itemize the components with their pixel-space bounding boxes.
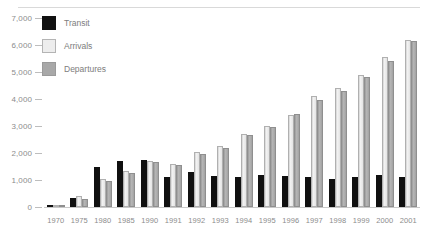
y-axis-tick: 7,000 bbox=[11, 12, 44, 24]
x-axis-tick-label: 1993 bbox=[209, 210, 233, 230]
y-axis-tick-mark bbox=[35, 126, 42, 127]
y-axis-tick-mark bbox=[35, 18, 42, 19]
bar-group bbox=[397, 10, 421, 207]
y-axis-tick: 0 bbox=[27, 201, 44, 213]
bar-group bbox=[279, 10, 303, 207]
bar-group bbox=[138, 10, 162, 207]
bar-group bbox=[162, 10, 186, 207]
bar-group bbox=[326, 10, 350, 207]
y-axis: 7,0006,0005,0004,0003,0002,0001,0000 bbox=[0, 0, 44, 239]
x-axis-tick-label: 1998 bbox=[326, 210, 350, 230]
bar-group bbox=[115, 10, 139, 207]
x-axis-tick-label: 2000 bbox=[373, 210, 397, 230]
y-axis-tick: 1,000 bbox=[11, 174, 44, 186]
y-axis-tick: 4,000 bbox=[11, 93, 44, 105]
x-axis-tick-label: 1996 bbox=[279, 210, 303, 230]
bar-departures[interactable] bbox=[317, 100, 323, 207]
y-axis-tick-label: 5,000 bbox=[11, 68, 32, 77]
x-axis-tick-label: 1990 bbox=[138, 210, 162, 230]
y-axis-tick-label: 1,000 bbox=[11, 176, 32, 185]
bar-departures[interactable] bbox=[247, 135, 253, 207]
bar-departures[interactable] bbox=[200, 154, 206, 207]
bar-group bbox=[68, 10, 92, 207]
bar-departures[interactable] bbox=[364, 77, 370, 207]
y-axis-tick-label: 6,000 bbox=[11, 41, 32, 50]
bar-group bbox=[232, 10, 256, 207]
bar-departures[interactable] bbox=[388, 61, 394, 207]
bar-departures[interactable] bbox=[223, 148, 229, 207]
bar-departures[interactable] bbox=[153, 162, 159, 207]
bar-groups bbox=[44, 10, 420, 207]
x-axis-tick-label: 1980 bbox=[91, 210, 115, 230]
bar-group bbox=[256, 10, 280, 207]
x-axis-tick-label: 1992 bbox=[185, 210, 209, 230]
y-axis-tick-label: 2,000 bbox=[11, 149, 32, 158]
x-axis-tick-label: 1970 bbox=[44, 210, 68, 230]
x-axis: 1970197519801985199019911992199319941995… bbox=[44, 210, 420, 230]
bar-group bbox=[303, 10, 327, 207]
y-axis-tick-mark bbox=[35, 180, 42, 181]
y-axis-tick-mark bbox=[35, 99, 42, 100]
bar-group bbox=[185, 10, 209, 207]
x-axis-tick-label: 1975 bbox=[68, 210, 92, 230]
bar-departures[interactable] bbox=[270, 127, 276, 207]
x-axis-tick-label: 1995 bbox=[256, 210, 280, 230]
bar-departures[interactable] bbox=[341, 91, 347, 207]
top-divider-rule bbox=[18, 7, 420, 8]
y-axis-tick: 5,000 bbox=[11, 66, 44, 78]
y-axis-tick-mark bbox=[35, 45, 42, 46]
y-axis-tick-mark bbox=[35, 207, 42, 208]
x-axis-tick-label: 1991 bbox=[162, 210, 186, 230]
bar-departures[interactable] bbox=[82, 199, 88, 207]
bar-group bbox=[350, 10, 374, 207]
y-axis-tick-mark bbox=[35, 153, 42, 154]
y-axis-tick: 2,000 bbox=[11, 147, 44, 159]
bar-group bbox=[209, 10, 233, 207]
y-axis-tick-label: 4,000 bbox=[11, 95, 32, 104]
y-axis-tick-mark bbox=[35, 72, 42, 73]
x-axis-tick-label: 1994 bbox=[232, 210, 256, 230]
bar-departures[interactable] bbox=[411, 41, 417, 207]
bar-group bbox=[373, 10, 397, 207]
bar-departures[interactable] bbox=[129, 173, 135, 207]
bar-departures[interactable] bbox=[106, 181, 112, 207]
x-axis-tick-label: 1997 bbox=[303, 210, 327, 230]
bar-departures[interactable] bbox=[294, 114, 300, 207]
x-axis-tick-label: 1985 bbox=[115, 210, 139, 230]
y-axis-tick: 3,000 bbox=[11, 120, 44, 132]
y-axis-tick: 6,000 bbox=[11, 39, 44, 51]
bar-group bbox=[44, 10, 68, 207]
x-axis-tick-label: 1999 bbox=[350, 210, 374, 230]
x-axis-baseline bbox=[44, 207, 420, 208]
y-axis-tick-label: 7,000 bbox=[11, 14, 32, 23]
y-axis-tick-label: 0 bbox=[27, 203, 32, 212]
bar-departures[interactable] bbox=[176, 165, 182, 207]
x-axis-tick-label: 2001 bbox=[397, 210, 421, 230]
bar-chart-figure: 7,0006,0005,0004,0003,0002,0001,0000 Tra… bbox=[0, 0, 428, 239]
y-axis-tick-label: 3,000 bbox=[11, 122, 32, 131]
bar-group bbox=[91, 10, 115, 207]
